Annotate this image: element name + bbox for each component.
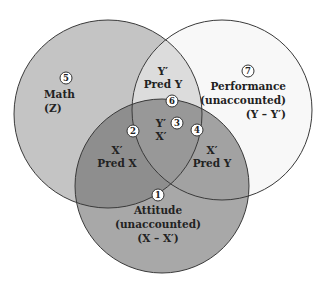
region-7-line-1: Performance bbox=[211, 80, 287, 92]
venn-diagram: 5 Math (Z) Y′ Pred Y 6 7 Performance (un… bbox=[0, 0, 329, 282]
region-7-line-3: (Y – Y′) bbox=[246, 108, 286, 120]
region-3-line-2: X′ bbox=[156, 130, 167, 142]
region-7-line-2: (unaccounted) bbox=[200, 94, 286, 106]
badge-1-number: 1 bbox=[155, 190, 161, 200]
region-5-line-1: Math bbox=[44, 88, 75, 100]
region-2-line-2: Pred X bbox=[97, 157, 137, 169]
region-1-line-1: Attitude bbox=[133, 204, 182, 216]
region-6-line-1: Y′ bbox=[157, 65, 168, 77]
badge-2-number: 2 bbox=[130, 126, 136, 136]
region-4-line-1: X′ bbox=[207, 144, 218, 156]
badge-4-number: 4 bbox=[194, 125, 200, 135]
region-3-line-1: Y′ bbox=[155, 117, 166, 129]
region-6-line-2: Pred Y bbox=[144, 78, 183, 90]
region-2-line-1: X′ bbox=[112, 144, 123, 156]
badge-5-number: 5 bbox=[63, 73, 69, 83]
badge-3-number: 3 bbox=[174, 118, 180, 128]
badge-6-number: 6 bbox=[169, 96, 175, 106]
region-4-line-2: Pred Y bbox=[193, 157, 232, 169]
region-5-line-2: (Z) bbox=[44, 102, 62, 114]
region-1-line-3: (X – X′) bbox=[137, 232, 179, 244]
region-1-line-2: (unaccounted) bbox=[115, 218, 201, 230]
badge-7-number: 7 bbox=[245, 66, 251, 76]
